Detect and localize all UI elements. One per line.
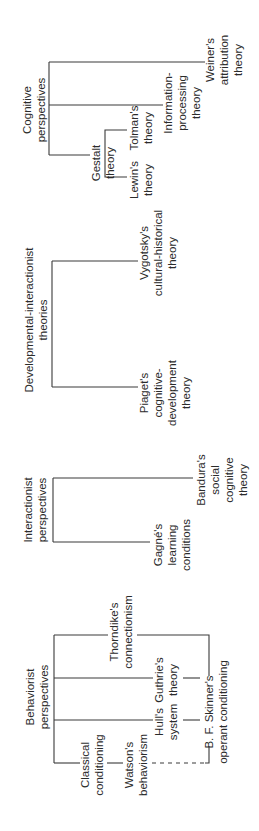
svg-text:operant conditioning: operant conditioning [217,660,229,764]
information-processing-label: Information- processing theory [162,72,202,134]
svg-text:learning: learning [166,525,178,566]
svg-text:B. F. Skinner's: B. F. Skinner's [203,675,215,748]
classical-label: Classical conditioning [79,734,105,795]
lewin-label: Lewin's theory [128,161,154,199]
svg-text:conditioning: conditioning [93,734,105,795]
svg-text:theory: theory [237,464,249,496]
svg-text:Lewin's: Lewin's [128,161,140,199]
svg-text:theory: theory [104,147,116,179]
piaget-label: Piaget's cognitive- development theory [138,359,192,426]
gagne-label: Gagné's learning conditions [152,519,192,571]
svg-text:Watson's: Watson's [123,742,135,789]
svg-text:theory: theory [142,112,154,144]
guthrie-label: Guthrie's theory [153,657,179,703]
bandura-label: Bandura's social cognitive theory [195,454,249,506]
tolman-label: Tolman's theory [128,105,154,150]
svg-text:Behaviorist: Behaviorist [24,668,36,726]
svg-text:Thorndike's: Thorndike's [108,602,120,661]
svg-text:Hull's: Hull's [153,708,165,736]
svg-text:cognitive-: cognitive- [152,368,164,417]
svg-text:connectionism: connectionism [122,595,134,669]
behaviorist-title: Behaviorist perspectives [24,664,50,729]
svg-text:Classical: Classical [79,742,91,788]
svg-text:theory: theory [232,44,244,76]
behaviorist-group: Behaviorist perspectives Thorndike's con… [24,595,229,796]
svg-text:Guthrie's: Guthrie's [153,657,165,703]
interactionist-title: Interactionist perspectives [22,477,48,543]
svg-text:perspectives: perspectives [35,77,47,142]
svg-text:theory: theory [180,377,192,409]
svg-text:Vygotsky's: Vygotsky's [138,226,150,280]
svg-text:theory: theory [190,87,202,119]
svg-text:perspectives: perspectives [36,477,48,542]
svg-text:development: development [166,359,178,426]
svg-text:Tolman's: Tolman's [128,105,140,150]
svg-text:Weiner's: Weiner's [204,38,216,82]
svg-text:cognitive: cognitive [223,457,235,502]
svg-text:Interactionist: Interactionist [22,477,34,543]
svg-text:Developmental-interactionist: Developmental-interactionist [23,247,35,393]
svg-text:processing: processing [176,75,188,131]
weiner-label: Weiner's attribution theory [204,35,244,86]
svg-text:cultural-historical: cultural-historical [152,210,164,296]
svg-text:theories: theories [37,299,49,340]
learning-theories-diagram: Cognitive perspectives Gestalt theory Le… [0,0,259,831]
svg-text:theory: theory [167,664,179,696]
svg-text:perspectives: perspectives [38,664,50,729]
watson-label: Watson's behaviorism [123,734,149,796]
developmental-title: Developmental-interactionist theories [23,247,49,393]
svg-text:Bandura's: Bandura's [195,454,207,506]
thorndike-label: Thorndike's connectionism [108,595,134,669]
svg-text:Cognitive: Cognitive [21,86,33,134]
vygotsky-label: Vygotsky's cultural-historical theory [138,210,178,296]
cognitive-perspectives-group: Cognitive perspectives Gestalt theory Le… [21,35,244,199]
cognitive-title: Cognitive perspectives [21,77,47,142]
svg-text:attribution: attribution [218,35,230,86]
svg-text:system: system [167,704,179,740]
svg-text:conditions: conditions [180,519,192,571]
developmental-interactionist-group: Developmental-interactionist theories Vy… [23,210,192,426]
svg-text:Gestalt: Gestalt [90,144,102,181]
svg-text:Information-: Information- [162,72,174,134]
svg-text:Gagné's: Gagné's [152,524,164,567]
hull-label: Hull's system [153,704,179,740]
skinner-label: B. F. Skinner's operant conditioning [203,660,229,764]
svg-text:Piaget's: Piaget's [138,372,150,413]
svg-text:social: social [209,465,221,494]
gestalt-label: Gestalt theory [90,144,116,181]
svg-text:behaviorism: behaviorism [137,734,149,796]
svg-text:theory: theory [142,164,154,196]
interactionist-group: Interactionist perspectives Gagné's lear… [22,454,249,571]
svg-text:theory: theory [166,237,178,269]
